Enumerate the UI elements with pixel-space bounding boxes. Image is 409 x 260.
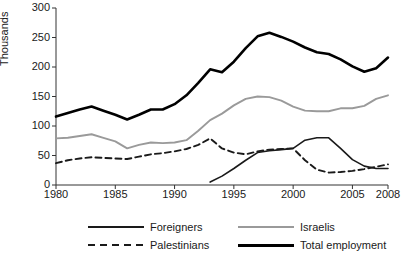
- legend-label: Israelis: [300, 221, 335, 233]
- legend-entry-israelis[interactable]: Israelis: [238, 221, 388, 233]
- chart-legend: ForeignersIsraelisPalestiniansTotal empl…: [88, 218, 388, 254]
- x-axis-tick-labels: 1980198519901995200020052008: [0, 188, 409, 204]
- x-tick-label-1995: 1995: [222, 188, 246, 200]
- y-axis-tick-labels: 300250200150100500: [16, 0, 50, 193]
- axis-tick-marks: [52, 8, 388, 189]
- legend-entry-total-employment[interactable]: Total employment: [238, 239, 388, 251]
- y-tick-label-200: 200: [20, 61, 50, 72]
- x-tick-label-1980: 1980: [44, 188, 68, 200]
- y-tick-label-250: 250: [20, 32, 50, 43]
- legend-label: Foreigners: [150, 221, 203, 233]
- y-tick-label-100: 100: [20, 120, 50, 131]
- legend-entry-palestinians[interactable]: Palestinians: [88, 239, 238, 251]
- x-tick-label-2005: 2005: [340, 188, 364, 200]
- series-line-total-employment: [56, 33, 388, 120]
- x-tick-label-2008: 2008: [376, 188, 400, 200]
- y-axis-title: Thousands: [0, 0, 10, 66]
- x-tick-label-1990: 1990: [162, 188, 186, 200]
- y-tick-label-50: 50: [20, 150, 50, 161]
- legend-label: Total employment: [300, 239, 386, 251]
- x-tick-label-1985: 1985: [103, 188, 127, 200]
- data-series-group: [56, 33, 388, 182]
- series-line-israelis: [56, 95, 388, 148]
- legend-swatch-icon: [238, 240, 294, 250]
- series-line-palestinians: [56, 138, 388, 172]
- legend-swatch-icon: [88, 222, 144, 232]
- legend-label: Palestinians: [150, 239, 209, 251]
- legend-swatch-icon: [238, 222, 294, 232]
- x-tick-label-2000: 2000: [281, 188, 305, 200]
- legend-entry-foreigners[interactable]: Foreigners: [88, 221, 238, 233]
- y-tick-label-150: 150: [20, 91, 50, 102]
- legend-swatch-icon: [88, 240, 144, 250]
- y-tick-label-300: 300: [20, 2, 50, 13]
- chart-container: Thousands 300250200150100500 19801985199…: [0, 0, 409, 260]
- series-line-foreigners: [210, 138, 388, 182]
